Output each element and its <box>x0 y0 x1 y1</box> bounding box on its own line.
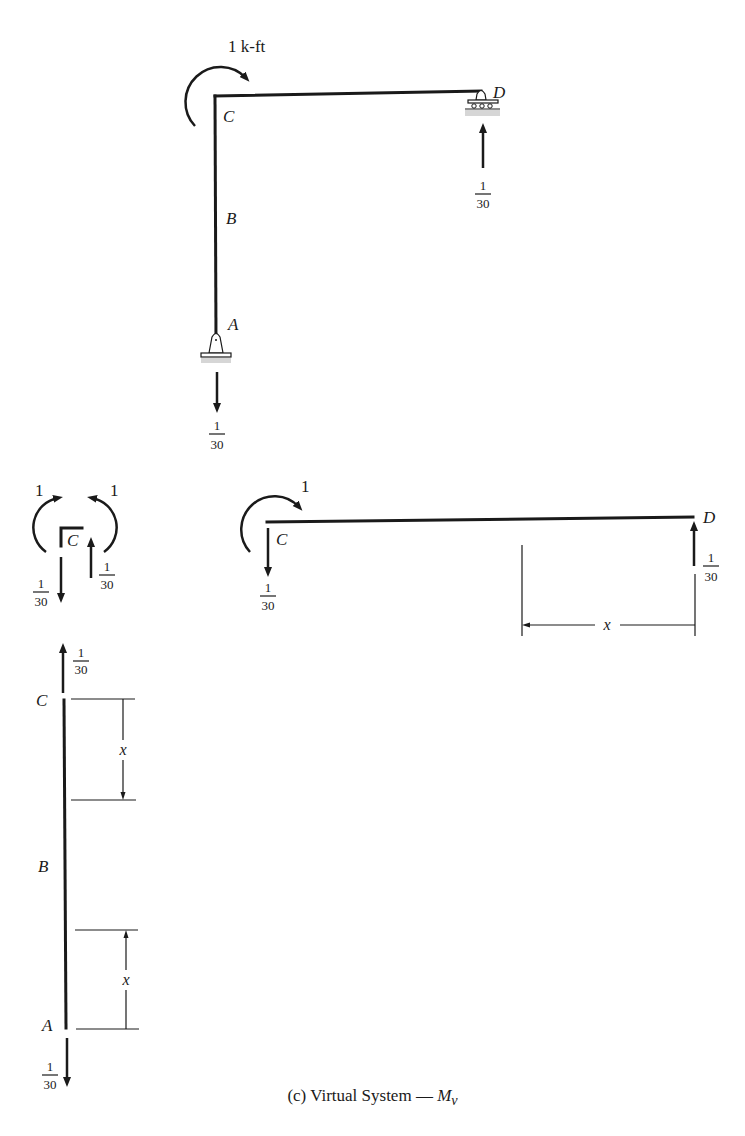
node-label-b: B <box>226 209 237 228</box>
beam-moment-label: 1 <box>301 477 310 496</box>
svg-text:30: 30 <box>262 598 275 613</box>
frame-beam <box>215 91 481 96</box>
svg-text:1: 1 <box>78 645 85 660</box>
svg-text:x: x <box>121 971 129 988</box>
caption-text: (c) Virtual System — <box>287 1086 437 1105</box>
reaction-d-value: 1 30 <box>475 178 491 211</box>
beam-cd-member <box>267 517 693 522</box>
svg-text:1: 1 <box>214 418 221 433</box>
svg-text:x: x <box>602 616 610 633</box>
joint-c-free-body: 1 1 C 1 30 1 30 <box>33 481 119 609</box>
frame-column <box>215 96 216 340</box>
caption-symbol: M <box>437 1086 451 1105</box>
svg-text:30: 30 <box>477 196 490 211</box>
virtual-system-diagram: 1 k-ft C B A D 1 30 <box>0 0 745 1136</box>
frame-structure: 1 k-ft C B A D 1 30 <box>185 37 506 452</box>
beam-moment-icon <box>241 496 299 552</box>
svg-text:1: 1 <box>265 580 272 595</box>
svg-text:1: 1 <box>38 576 45 591</box>
pin-support-icon <box>201 334 231 364</box>
svg-text:1: 1 <box>104 559 111 574</box>
node-label-c: C <box>223 107 235 126</box>
column-dimension-x-top: x <box>71 699 136 800</box>
svg-text:30: 30 <box>35 594 48 609</box>
joint-label-c: C <box>67 531 79 550</box>
svg-text:30: 30 <box>211 437 224 452</box>
beam-force-d-value: 1 30 <box>703 550 719 584</box>
joint-moment-right-icon <box>92 498 117 552</box>
column-ac-free-body: 1 30 C B A x x 1 30 <box>36 645 139 1092</box>
caption-subscript: v <box>451 1092 457 1108</box>
beam-label-c: C <box>276 530 288 549</box>
svg-text:30: 30 <box>101 577 114 592</box>
beam-label-d: D <box>702 508 716 527</box>
joint-moment-right-label: 1 <box>110 481 119 500</box>
beam-force-c-value: 1 30 <box>260 580 276 613</box>
svg-text:30: 30 <box>75 662 88 677</box>
beam-dimension-x: x <box>522 545 695 636</box>
joint-force-right-value: 1 30 <box>99 559 115 592</box>
node-label-a: A <box>227 315 239 334</box>
joint-moment-left-label: 1 <box>35 481 44 500</box>
svg-text:1: 1 <box>47 1059 54 1074</box>
moment-label: 1 k-ft <box>228 37 266 56</box>
column-label-a: A <box>41 1016 53 1035</box>
figure-caption: (c) Virtual System — Mv <box>0 1086 745 1109</box>
column-label-c: C <box>36 691 48 710</box>
joint-force-left-value: 1 30 <box>33 576 49 609</box>
beam-cd-free-body: 1 C D 1 30 1 30 x <box>241 477 719 636</box>
node-label-d: D <box>492 83 506 102</box>
column-force-top-value: 1 30 <box>73 645 89 677</box>
svg-text:x: x <box>118 741 126 758</box>
svg-text:1: 1 <box>708 550 715 565</box>
joint-moment-left-icon <box>33 498 58 552</box>
reaction-a-value: 1 30 <box>209 418 225 452</box>
svg-text:30: 30 <box>705 569 718 584</box>
column-ac-member <box>64 700 66 1028</box>
svg-text:1: 1 <box>480 178 487 193</box>
column-dimension-x-bottom: x <box>75 930 139 1029</box>
column-label-b: B <box>38 857 49 876</box>
